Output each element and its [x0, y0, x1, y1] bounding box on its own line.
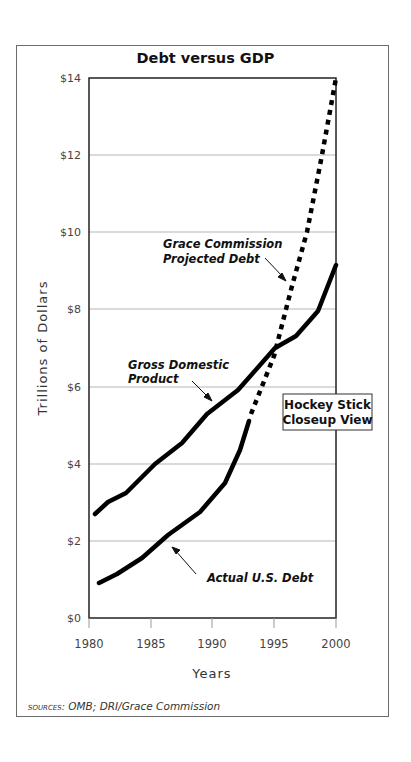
gdp-line	[95, 265, 336, 514]
x-tick-1980: 1980	[74, 637, 103, 651]
arrow-grace	[265, 258, 286, 281]
label-closeup-view: Closeup View	[282, 413, 372, 427]
y-tick-14: $14	[60, 72, 81, 85]
label-actual-debt: Actual U.S. Debt	[206, 571, 314, 585]
arrow-gdp	[192, 381, 212, 401]
label-grace-commission: Grace Commission	[163, 237, 282, 251]
chart-plot: $0 $2 $4 $6 $8 $10 $12 $14 1980 1985 199…	[0, 0, 411, 762]
plot-area	[89, 78, 336, 618]
x-tick-2000: 2000	[321, 637, 350, 651]
x-tick-marks	[89, 618, 336, 628]
arrow-debt	[172, 547, 196, 574]
label-product: Product	[128, 372, 179, 386]
label-projected-debt: Projected Debt	[163, 252, 260, 266]
source-prefix: sources:	[28, 701, 65, 712]
x-axis-label: Years	[191, 666, 231, 681]
y-tick-labels: $0 $2 $4 $6 $8 $10 $12 $14	[60, 72, 81, 625]
gridlines	[89, 155, 336, 541]
source-note: sources: OMB; DRI/Grace Commission	[28, 700, 220, 712]
y-tick-6: $6	[67, 381, 81, 394]
label-gross-domestic: Gross Domestic	[128, 358, 229, 372]
x-tick-1990: 1990	[197, 637, 226, 651]
x-tick-labels: 1980 1985 1990 1995 2000	[74, 637, 350, 651]
x-tick-1985: 1985	[136, 637, 165, 651]
y-tick-10: $10	[60, 226, 81, 239]
x-tick-1995: 1995	[259, 637, 288, 651]
source-text: OMB; DRI/Grace Commission	[65, 700, 220, 712]
y-axis-label: Trillions of Dollars	[35, 281, 50, 417]
label-hockey-stick: Hockey Stick	[284, 398, 372, 412]
y-tick-4: $4	[67, 458, 81, 471]
y-tick-2: $2	[67, 535, 81, 548]
y-tick-0: $0	[67, 612, 81, 625]
y-tick-8: $8	[67, 303, 81, 316]
y-tick-12: $12	[60, 149, 81, 162]
actual-debt-line	[99, 421, 249, 583]
